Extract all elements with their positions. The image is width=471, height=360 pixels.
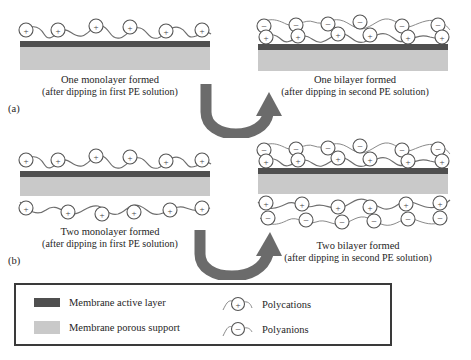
membrane-porous-support: [20, 47, 210, 70]
caption-sub: (after dipping in first PE solution): [10, 238, 210, 250]
svg-text:+: +: [403, 200, 408, 210]
svg-text:+: +: [127, 23, 132, 33]
svg-text:−: −: [357, 17, 363, 28]
svg-text:+: +: [23, 156, 28, 166]
svg-text:+: +: [405, 33, 410, 43]
legend-label: Membrane active layer: [69, 297, 166, 308]
legend-label: Membrane porous support: [69, 322, 180, 333]
svg-text:+: +: [335, 30, 340, 40]
caption-one-monolayer: One monolayer formed (after dipping in f…: [10, 74, 210, 98]
caption-two-monolayer: Two monolayer formed (after dipping in f…: [10, 226, 210, 250]
legend-box: Membrane active layer Membrane porous su…: [14, 283, 392, 346]
svg-text:−: −: [371, 216, 377, 227]
membrane-porous-support: [258, 50, 448, 71]
svg-text:+: +: [439, 33, 444, 43]
active-layer-swatch: [34, 298, 60, 307]
membrane-porous-support: [20, 177, 210, 196]
membrane-porous-support: [258, 174, 448, 194]
svg-text:+: +: [439, 157, 444, 167]
membrane-active-layer: [20, 171, 210, 177]
svg-text:+: +: [263, 157, 268, 167]
svg-text:−: −: [235, 324, 241, 335]
panel-one-monolayer: + + + + + +: [12, 10, 217, 72]
caption-main: Two monolayer formed: [10, 226, 210, 238]
svg-text:+: +: [367, 31, 372, 41]
panel-one-bilayer: − − − − − − + + + + +: [250, 10, 455, 72]
legend-label: Polycations: [262, 299, 311, 310]
polyanion-chain-bottom: − − − − − −: [260, 211, 447, 229]
svg-text:+: +: [163, 27, 168, 37]
legend-item-active-layer: Membrane active layer: [34, 297, 166, 308]
svg-text:+: +: [299, 200, 304, 210]
svg-text:−: −: [399, 145, 405, 156]
polycation-chain-top: + + + + + +: [19, 19, 211, 38]
svg-text:+: +: [335, 203, 340, 213]
panel-label-b: (b): [8, 255, 20, 266]
panel-label-a: (a): [8, 103, 20, 114]
svg-text:+: +: [199, 26, 204, 36]
legend-item-polyanions: − Polyanions: [221, 319, 309, 339]
svg-text:+: +: [335, 154, 340, 164]
svg-text:+: +: [55, 26, 60, 36]
porous-support-swatch: [34, 321, 60, 334]
polycation-chain-top: + + + + + +: [19, 149, 211, 168]
polycation-chain-top: + + + + + +: [259, 151, 449, 168]
polycation-chain-top: + + + + + +: [259, 27, 449, 44]
arrow-first-to-second-dip: [196, 82, 301, 138]
svg-text:+: +: [167, 206, 172, 216]
svg-text:+: +: [55, 156, 60, 166]
svg-text:+: +: [93, 22, 98, 32]
svg-text:−: −: [435, 144, 441, 155]
polyanion-chain-top: − − − − − −: [257, 139, 450, 157]
svg-text:+: +: [367, 155, 372, 165]
legend-item-porous-support: Membrane porous support: [34, 321, 180, 334]
caption-main: One monolayer formed: [10, 74, 210, 86]
svg-text:+: +: [405, 157, 410, 167]
svg-text:−: −: [399, 21, 405, 32]
one-bilayer-schematic: − − − − − − + + + + +: [250, 10, 455, 72]
svg-text:+: +: [235, 300, 240, 310]
svg-text:+: +: [93, 152, 98, 162]
polyanion-icon: −: [221, 319, 255, 339]
svg-text:+: +: [263, 199, 268, 209]
polyanion-chain-top: − − − − − −: [257, 15, 450, 33]
svg-text:+: +: [437, 199, 442, 209]
one-monolayer-schematic: + + + + + +: [12, 10, 217, 72]
svg-text:−: −: [325, 19, 331, 30]
svg-text:−: −: [437, 213, 443, 224]
caption-sub: (after dipping in first PE solution): [10, 86, 210, 98]
membrane-active-layer: [20, 41, 210, 47]
two-monolayer-schematic: + + + + + + + + + +: [12, 140, 217, 226]
membrane-active-layer: [258, 168, 448, 174]
svg-text:−: −: [357, 141, 363, 152]
legend-label: Polyanions: [262, 324, 309, 335]
arrow-second-dip: [192, 228, 302, 280]
svg-text:+: +: [99, 210, 104, 220]
svg-text:+: +: [131, 208, 136, 218]
svg-text:+: +: [295, 32, 300, 42]
svg-text:+: +: [23, 26, 28, 36]
membrane-active-layer: [258, 44, 448, 50]
polycation-chain-bottom: + + + + + +: [258, 196, 450, 214]
svg-text:−: −: [339, 217, 345, 228]
polycation-chain-bottom: + + + + + +: [19, 201, 210, 221]
svg-text:+: +: [127, 153, 132, 163]
panel-two-monolayer: + + + + + + + + + +: [12, 140, 217, 226]
legend-item-polycations: + Polycations: [221, 294, 311, 314]
svg-text:+: +: [295, 156, 300, 166]
polycation-icon: +: [221, 294, 255, 314]
svg-text:+: +: [367, 203, 372, 213]
svg-text:+: +: [65, 208, 70, 218]
two-bilayer-schematic: − − − − − − + + + + +: [250, 134, 455, 236]
svg-text:−: −: [265, 213, 271, 224]
svg-text:+: +: [23, 204, 28, 214]
panel-two-bilayer: − − − − − − + + + + +: [250, 134, 455, 236]
svg-text:+: +: [163, 157, 168, 167]
svg-text:−: −: [405, 214, 411, 225]
svg-text:+: +: [199, 204, 204, 214]
svg-text:−: −: [325, 143, 331, 154]
svg-text:−: −: [435, 20, 441, 31]
svg-text:+: +: [199, 156, 204, 166]
svg-text:−: −: [303, 215, 309, 226]
svg-text:+: +: [263, 33, 268, 43]
